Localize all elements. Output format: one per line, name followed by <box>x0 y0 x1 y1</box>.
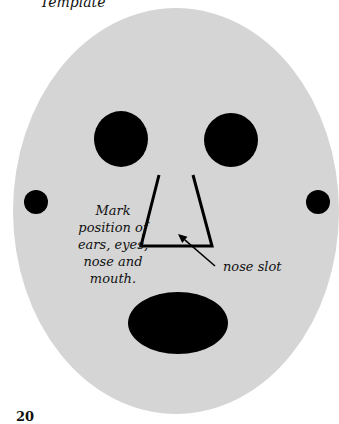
left-eye <box>94 111 148 167</box>
nose-slot-label: nose slot <box>223 259 282 274</box>
page-number: 20 <box>16 409 34 424</box>
instruction-line: Mark <box>64 202 162 219</box>
instruction-line: mouth. <box>64 270 162 287</box>
instruction-line: nose and <box>64 253 162 270</box>
instruction-line: ears, eyes, <box>64 236 162 253</box>
instruction-line: position of <box>64 219 162 236</box>
right-eye <box>204 113 258 167</box>
figure-title: Template <box>40 0 106 10</box>
instruction-text: Mark position of ears, eyes, nose and mo… <box>64 202 162 287</box>
right-ear <box>306 190 330 214</box>
mouth <box>128 292 228 354</box>
left-ear <box>24 190 48 214</box>
